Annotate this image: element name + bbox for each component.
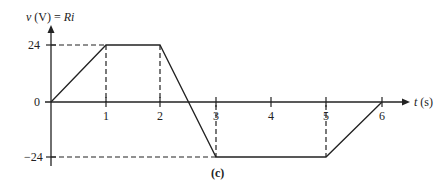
x-tick-5: 5 — [323, 110, 329, 122]
x-tick-3: 3 — [213, 110, 219, 122]
figure-caption: (c) — [211, 167, 224, 179]
y-axis-label-ri: Ri — [64, 10, 75, 24]
x-tick-4: 4 — [268, 110, 274, 122]
x-tick-1: 1 — [103, 110, 109, 122]
y-axis-label-unit: (V) = — [31, 10, 63, 24]
y-axis-label: v (V) = Ri — [26, 11, 74, 23]
x-axis-arrow-icon — [402, 99, 410, 106]
x-tick-2: 2 — [157, 110, 163, 122]
x-tick-6: 6 — [379, 110, 385, 122]
x-axis-label: t (s) — [414, 96, 433, 108]
y-tick-24: 24 — [28, 39, 40, 51]
x-axis-label-unit: (s) — [417, 95, 433, 109]
voltage-time-chart — [0, 0, 448, 192]
y-tick-0: 0 — [34, 96, 40, 108]
y-tick-minus-24: −24 — [24, 151, 43, 163]
y-axis-arrow-icon — [48, 25, 55, 33]
